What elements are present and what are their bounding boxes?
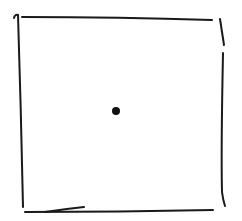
center-dot xyxy=(112,107,120,115)
square-left-edge xyxy=(18,15,23,207)
square-top-edge xyxy=(22,17,212,20)
sketch-canvas xyxy=(0,0,242,221)
square-right-edge-lower xyxy=(222,53,225,206)
square-right-edge-upper xyxy=(220,19,224,45)
